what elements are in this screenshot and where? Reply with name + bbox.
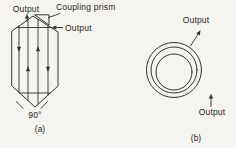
- panel-a-caption: (a): [35, 124, 46, 134]
- coupling-prism-label: Coupling prism: [56, 2, 116, 12]
- output-side-label: Output: [65, 23, 92, 33]
- output-lower-label: Output: [199, 107, 226, 117]
- panel-b-caption: (b): [191, 133, 202, 143]
- beam-arrow-down-icon: [17, 47, 21, 52]
- beam-arrow-down-icon: [46, 67, 50, 72]
- angle-mark-right: [41, 102, 48, 109]
- optical-resonator-figure: Output Coupling prism Output 90° (a): [0, 0, 236, 148]
- panel-a: Output Coupling prism Output 90° (a): [12, 2, 116, 134]
- output-top-label: Output: [13, 4, 40, 14]
- beam-arrow-up-icon: [26, 66, 30, 71]
- panel-b: Output Output (b): [147, 15, 226, 143]
- angle-mark-left: [17, 102, 24, 109]
- output-top-arrow-icon: [25, 14, 29, 19]
- angle-label: 90°: [28, 110, 41, 120]
- output-upper-arrow-icon: [196, 30, 200, 35]
- output-lower-arrow-icon: [209, 94, 213, 99]
- ring-outer-circle: [147, 43, 202, 98]
- coupling-prism: [35, 15, 49, 25]
- output-upper-arrow-shaft: [191, 34, 199, 47]
- beam-arrow-up-icon: [36, 46, 40, 51]
- output-upper-label: Output: [183, 15, 210, 25]
- ring-inner-circle: [156, 54, 192, 90]
- figure-canvas: Output Coupling prism Output 90° (a): [0, 0, 236, 148]
- coupling-prism-leader: [49, 14, 61, 18]
